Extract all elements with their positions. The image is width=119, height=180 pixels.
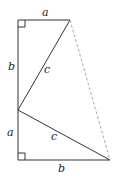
label-left-a: a — [7, 126, 14, 139]
right-angle-marker-bottom — [18, 153, 25, 160]
dashed-edge — [70, 20, 110, 160]
label-lower-c: c — [51, 130, 57, 143]
trapezoid-diagram: a b c a c b — [0, 0, 119, 180]
lower-hypotenuse-c — [18, 110, 110, 160]
label-top-a: a — [42, 6, 49, 19]
label-left-b: b — [8, 60, 15, 73]
right-angle-marker-top — [18, 20, 25, 27]
label-upper-c: c — [44, 63, 50, 76]
label-bottom-b: b — [58, 162, 65, 175]
